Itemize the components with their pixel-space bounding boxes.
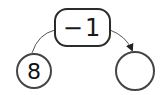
start-number-circle: 8 (16, 53, 52, 89)
result-answer-circle[interactable] (115, 51, 155, 91)
input-connector-line (32, 30, 55, 53)
operation-box: −1 (54, 8, 111, 47)
operation-label: −1 (63, 14, 102, 42)
start-number-value: 8 (27, 59, 41, 84)
output-arrow (110, 30, 132, 50)
